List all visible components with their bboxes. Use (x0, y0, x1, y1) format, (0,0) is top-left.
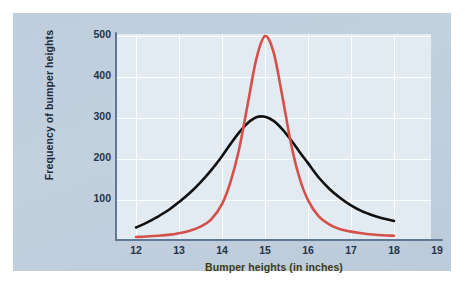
x-tick-label: 16 (293, 244, 323, 256)
y-axis-line (115, 32, 117, 241)
x-tick-label: 13 (164, 244, 194, 256)
x-tick-label: 12 (121, 244, 151, 256)
y-tick-labels: 500 400 300 200 100 (77, 13, 111, 284)
x-tick-label: 14 (207, 244, 237, 256)
y-tick-label: 200 (81, 152, 111, 163)
x-tick-label: 17 (336, 244, 366, 256)
y-tick-label: 500 (81, 29, 111, 40)
y-tick-label: 300 (81, 111, 111, 122)
x-tick-label: 15 (250, 244, 280, 256)
x-tick-label: 18 (379, 244, 409, 256)
chart-panel: 500 400 300 200 100 12 13 14 15 16 17 18… (13, 13, 451, 271)
x-axis-title: Bumper heights (in inches) (117, 261, 431, 273)
black-distribution-curve (136, 116, 394, 227)
x-tick-label: 19 (422, 244, 452, 256)
y-tick-label: 100 (81, 193, 111, 204)
y-axis-title: Frequency of bumper heights (43, 25, 55, 185)
y-tick-label: 400 (81, 70, 111, 81)
x-axis-line (115, 239, 443, 241)
chart-figure: 500 400 300 200 100 12 13 14 15 16 17 18… (0, 0, 465, 284)
